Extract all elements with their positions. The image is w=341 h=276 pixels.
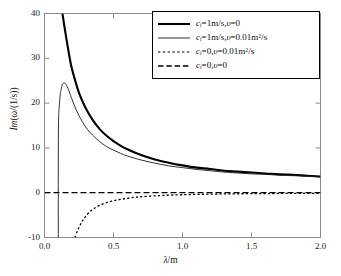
legend-label-0: ci=1m/s,υ=0 (196, 19, 240, 29)
legend-line-dashed (157, 61, 191, 71)
legend-item: ci=1m/s,υ=0 (157, 17, 315, 31)
legend-item: ci=1m/s,υ=0.01m2/s (157, 31, 315, 45)
legend-line-solid-thin (157, 33, 191, 43)
x-tick-label: 0.5 (104, 241, 124, 251)
legend-item: ci=0,υ=0.01m2/s (157, 45, 315, 59)
x-tick-label: 1.0 (173, 241, 193, 251)
legend-item: ci=0,υ=0 (157, 59, 315, 73)
figure-root: 0.00.51.01.52.0 -10010203040 Im(ω/(1/s))… (0, 0, 341, 276)
legend-label-2: ci=0,υ=0.01m2/s (196, 47, 254, 57)
y-tick-label: 40 (14, 8, 40, 18)
legend-label-3: ci=0,υ=0 (196, 61, 227, 71)
x-tick-label: 2.0 (311, 241, 331, 251)
x-tick-label: 0.0 (35, 241, 55, 251)
y-tick-label: 0 (14, 187, 40, 197)
legend-line-solid-thick (157, 19, 191, 29)
series-line (75, 193, 321, 237)
x-tick-label: 1.5 (242, 241, 262, 251)
legend-label-1: ci=1m/s,υ=0.01m2/s (196, 33, 267, 43)
legend-line-dotted (157, 47, 191, 57)
legend-box: ci=1m/s,υ=0 ci=1m/s,υ=0.01m2/s ci=0,υ=0.… (152, 11, 320, 79)
x-axis-title: λ/m (0, 255, 341, 265)
series-line (58, 83, 320, 238)
y-tick-label: -10 (14, 232, 40, 242)
y-axis-title: Im(ω/(1/s)) (9, 59, 19, 159)
